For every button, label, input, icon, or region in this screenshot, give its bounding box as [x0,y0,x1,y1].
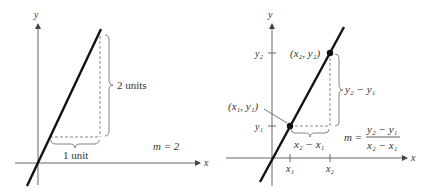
y2-tick-label: y₂ [254,48,263,59]
slope-numerator: y₂ − y₁ [366,123,398,135]
right-graph: y x y₂ y₁ x₁ x₂ (x₂, y₂) (x₁, y₁) y₂ − y… [226,9,416,186]
run-label: x₂ − x₁ [293,138,325,150]
slope-diagram: y x 2 units 1 unit m = 2 y x y₂ y₁ x₁ x₂ [0,0,422,193]
rise-brace [105,35,113,136]
left-graph: y x 2 units 1 unit m = 2 [15,9,209,186]
y-axis-label: y [267,9,273,20]
run-brace [291,129,329,137]
run-brace [51,140,99,148]
x-axis-label: x [410,152,416,163]
y-axis-label: y [33,9,39,20]
point1-label: (x₁, y₁) [228,100,259,113]
point2-label: (x₂, y₂) [290,47,321,60]
x1-tick-label: x₁ [285,163,294,174]
x-axis-label: x [203,157,209,168]
slope-denominator: x₂ − x₁ [366,139,398,151]
rise-brace [335,54,343,126]
x2-tick-label: x₂ [325,163,334,174]
point1-leader-line [264,109,287,123]
point-2 [327,50,333,56]
y1-tick-label: y₁ [254,121,263,132]
slope-label: m = 2 [153,140,180,152]
run-label: 1 unit [63,149,88,161]
rise-label: y₂ − y₁ [344,83,376,95]
slope-formula-lhs: m = [344,131,362,143]
point-1 [287,123,293,129]
rise-label: 2 units [117,79,147,91]
